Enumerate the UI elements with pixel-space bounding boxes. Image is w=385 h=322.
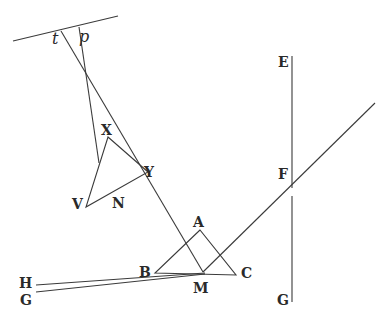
- label-a: A: [192, 214, 205, 230]
- label-f: F: [278, 166, 288, 182]
- label-e: E: [278, 54, 289, 70]
- ray-t-to-m: [61, 31, 203, 272]
- label-x: X: [101, 122, 112, 138]
- label-n: N: [112, 195, 125, 211]
- label-m: M: [193, 280, 209, 296]
- label-h: H: [19, 275, 32, 291]
- label-v: V: [71, 196, 84, 212]
- ray-m-through-f: [203, 103, 375, 272]
- optics-diagram: t p X Y V N A B C M H G E F G: [0, 0, 385, 322]
- prism-abc: [155, 230, 236, 275]
- label-y: Y: [143, 164, 155, 180]
- ray-p-to-prism: [79, 27, 99, 163]
- label-b: B: [139, 264, 151, 280]
- label-c: C: [241, 265, 252, 281]
- label-t: t: [52, 29, 59, 48]
- label-g-right: G: [277, 292, 289, 308]
- label-g-left: G: [20, 292, 32, 308]
- label-p: p: [79, 27, 89, 46]
- top-plane-line: [13, 16, 118, 41]
